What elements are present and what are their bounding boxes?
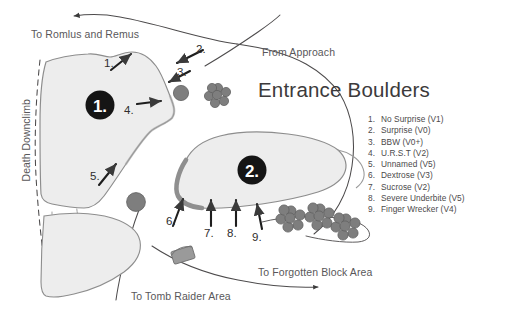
callout-number-9: 9. — [252, 231, 262, 243]
page-title: Entrance Boulders — [258, 78, 430, 102]
legend-item: 4. U.R.S.T (V2) — [368, 148, 507, 159]
callout-number-7: 7. — [204, 227, 214, 239]
label-to-romlus-and-remus: To Romlus and Remus — [31, 29, 139, 40]
rock-single-lower — [127, 193, 146, 212]
label-to-forgotten-block-area: To Forgotten Block Area — [258, 267, 372, 278]
legend-item: 1. No Surprise (V1) — [368, 114, 507, 125]
topo-map: 1. 2. To Romlus and Remus From Approach … — [0, 0, 507, 317]
legend-item: 3. BBW (V0+) — [368, 137, 507, 148]
legend-index: 1. — [368, 114, 381, 125]
rock-single-upper — [173, 85, 188, 100]
arrow-9 — [257, 204, 262, 229]
legend-name: Surprise (V0) — [381, 125, 507, 136]
rock-slab — [170, 245, 195, 265]
legend-item: 8. Severe Underbite (V5) — [368, 193, 507, 204]
legend-item: 7. Sucrose (V2) — [368, 182, 507, 193]
legend-index: 5. — [368, 159, 381, 170]
legend-item: 5. Unnamed (V5) — [368, 159, 507, 170]
legend-index: 4. — [368, 148, 381, 159]
legend-item: 2. Surprise (V0) — [368, 125, 507, 136]
boulder-2-marker-label: 2. — [245, 162, 259, 181]
legend-name: Finger Wrecker (V4) — [381, 204, 507, 215]
legend-name: Dextrose (V3) — [381, 170, 507, 181]
callout-number-2: 2. — [196, 43, 206, 55]
label-death-downclimb: Death Downclimb — [21, 92, 32, 188]
callout-number-4: 4. — [124, 104, 134, 116]
boulder-2-marker: 2. — [238, 156, 267, 185]
legend-index: 2. — [368, 125, 381, 136]
legend-index: 6. — [368, 170, 381, 181]
label-to-tomb-raider-area: To Tomb Raider Area — [131, 291, 231, 302]
boulder-lower-left-shape — [41, 213, 140, 297]
label-from-approach: From Approach — [262, 47, 335, 58]
rock-cluster-a — [276, 205, 305, 232]
callout-number-6: 6. — [166, 215, 176, 227]
legend-name: BBW (V0+) — [381, 137, 507, 148]
legend-index: 9. — [368, 204, 381, 215]
legend-item: 9. Finger Wrecker (V4) — [368, 204, 507, 215]
legend-name: No Surprise (V1) — [381, 114, 507, 125]
legend-item: 6. Dextrose (V3) — [368, 170, 507, 181]
boulder-1-marker-label: 1. — [93, 97, 107, 116]
legend-index: 8. — [368, 193, 381, 204]
rock-cluster-top — [204, 83, 230, 107]
legend-index: 3. — [368, 137, 381, 148]
legend-name: Severe Underbite (V5) — [381, 193, 507, 204]
legend-name: Sucrose (V2) — [381, 182, 507, 193]
boulder-1-marker: 1. — [86, 91, 115, 120]
legend-index: 7. — [368, 182, 381, 193]
legend-name: Unnamed (V5) — [381, 159, 507, 170]
rock-cluster-b — [305, 203, 334, 230]
callout-number-3: 3. — [177, 66, 187, 78]
problem-legend: 1. No Surprise (V1) 2. Surprise (V0) 3. … — [368, 114, 507, 215]
callout-number-1: 1. — [104, 57, 114, 69]
rock-cluster-c — [331, 213, 360, 240]
callout-number-5: 5. — [90, 170, 100, 182]
callout-number-8: 8. — [227, 227, 237, 239]
legend-name: U.R.S.T (V2) — [381, 148, 507, 159]
